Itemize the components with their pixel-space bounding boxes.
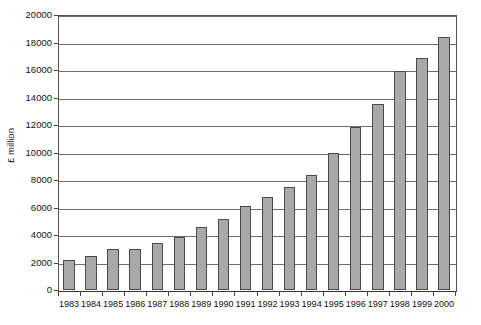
x-axis-tick-mark [102,291,103,296]
x-axis-tick-mark [212,291,213,296]
x-axis-tick-label: 1993 [279,299,301,309]
x-axis-tick-mark [279,291,280,296]
bar [306,175,317,291]
x-axis-tick-mark [301,291,302,296]
x-axis-tick-label: 1983 [58,299,80,309]
x-axis-tick-mark [124,291,125,296]
bar [284,187,295,290]
y-axis-tick-label: 18000 [6,38,52,48]
bar [174,237,185,290]
y-axis-tick-label: 6000 [6,203,52,213]
x-axis-tick-label: 1996 [345,299,367,309]
bar [262,197,273,291]
x-axis-tick-label: 1995 [323,299,345,309]
y-axis-tick-label: 8000 [6,175,52,185]
bar [240,206,251,290]
bar [107,249,118,290]
y-axis-tick-label: 0 [6,285,52,295]
y-axis-tick-label: 12000 [6,120,52,130]
bar [328,153,339,291]
bar [63,260,74,290]
y-axis-tick-label: 10000 [6,148,52,158]
x-axis-tick-mark [411,291,412,296]
x-axis-tick-label: 1985 [102,299,124,309]
x-axis-tick-mark [146,291,147,296]
bar [394,71,405,290]
x-axis-tick-mark [389,291,390,296]
bar [196,227,207,290]
x-axis-tick-mark [58,291,59,296]
y-axis-tick-label: 4000 [6,230,52,240]
bar [218,219,229,291]
x-axis-tick-label: 1984 [80,299,102,309]
y-axis-tick-label: 20000 [6,10,52,20]
y-axis-tick-label: 14000 [6,93,52,103]
x-axis-tick-label: 1987 [146,299,168,309]
x-axis-tick-label: 1986 [124,299,146,309]
x-axis-tick-label: 1990 [212,299,234,309]
x-axis-tick-mark [455,291,456,296]
x-axis-tick-label: 1991 [234,299,256,309]
bar [152,243,163,290]
y-axis-title-label: £ million [5,128,16,163]
x-axis-tick-mark [323,291,324,296]
x-axis-tick-label: 1989 [190,299,212,309]
bar [350,127,361,290]
bar-chart: £ million 020004000600080001000012000140… [0,0,481,325]
x-axis-tick-label: 1998 [389,299,411,309]
x-axis-tick-label: 1999 [411,299,433,309]
x-axis-tick-mark [257,291,258,296]
x-axis-tick-label: 1988 [168,299,190,309]
y-axis-tick-label: 2000 [6,258,52,268]
y-axis-tick-label: 16000 [6,65,52,75]
x-axis-tick-mark [433,291,434,296]
bar [372,104,383,290]
bar-series [58,15,455,290]
bar [129,249,140,290]
bar [438,37,449,290]
x-axis-tick-mark [80,291,81,296]
x-axis-tick-mark [168,291,169,296]
x-axis-tick-mark [367,291,368,296]
x-axis-tick-label: 1994 [301,299,323,309]
x-axis-tick-mark [190,291,191,296]
bar [416,58,427,290]
x-axis-tick-label: 1997 [367,299,389,309]
bar [85,256,96,290]
x-axis-tick-mark [345,291,346,296]
x-axis-tick-mark [234,291,235,296]
x-axis-tick-label: 2000 [433,299,455,309]
x-axis-tick-label: 1992 [257,299,279,309]
